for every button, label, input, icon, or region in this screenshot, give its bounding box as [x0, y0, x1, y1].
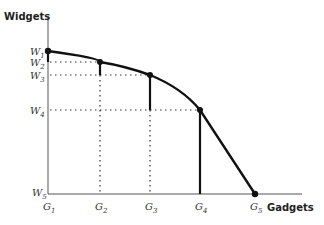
- horizontal-guides: [50, 62, 200, 110]
- x-tick-g4: G4: [195, 201, 207, 215]
- vertical-guides: [100, 75, 150, 194]
- x-tick-g5: G5: [250, 201, 263, 215]
- y-tick-w3: W3: [30, 70, 45, 84]
- x-tick-g3: G3: [145, 201, 158, 215]
- y-tick-w5: W5: [32, 187, 47, 201]
- x-tick-g2: G2: [95, 201, 108, 215]
- x-tick-g1: G1: [43, 201, 55, 215]
- widget-decrease-bars: [48, 51, 200, 194]
- y-tick-w4: W4: [30, 105, 45, 119]
- y-axis-label: Widgets: [4, 11, 50, 22]
- frontier-points: [45, 48, 258, 197]
- x-axis-label: Gadgets: [267, 202, 314, 213]
- ppf-chart: Widgets Gadgets W1 W2 W3 W4 W5 G1 G2 G3 …: [0, 0, 324, 225]
